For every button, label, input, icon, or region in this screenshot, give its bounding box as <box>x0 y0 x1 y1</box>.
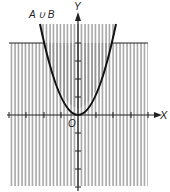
x-axis-label: X <box>159 109 168 121</box>
y-axis-arrow-icon <box>75 12 81 21</box>
origin-label: O <box>68 118 76 129</box>
region-label: A ∪ B <box>28 9 55 20</box>
venn-region-diagram: A ∪ B Y X O <box>0 0 170 192</box>
y-axis-label: Y <box>74 1 82 12</box>
